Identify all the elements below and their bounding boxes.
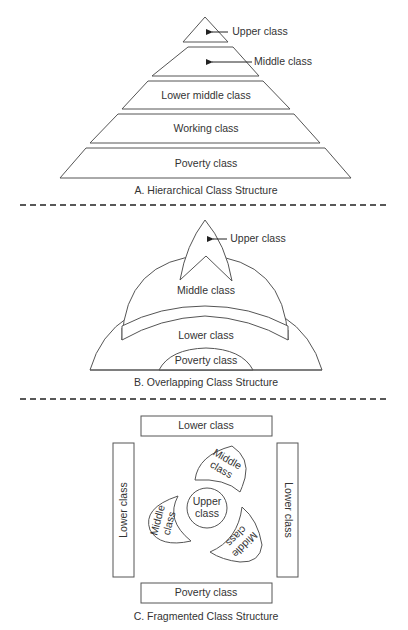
label-b-lower-class: Lower class xyxy=(178,329,233,341)
label-b-poverty-class: Poverty class xyxy=(175,354,237,366)
label-c-top-lower-class: Lower class xyxy=(178,419,233,431)
tier-upper-class xyxy=(183,17,228,42)
label-c-upper-line1: Upper xyxy=(193,495,222,507)
label-a-upper-class: Upper class xyxy=(232,25,287,37)
label-a-poverty-class: Poverty class xyxy=(175,157,237,169)
class-structure-diagram: Upper class Middle class Lower middle cl… xyxy=(0,0,408,630)
caption-c: C. Fragmented Class Structure xyxy=(134,610,279,622)
label-c-poverty-class: Poverty class xyxy=(175,586,237,598)
label-c-left-lower-class: Lower class xyxy=(117,482,129,537)
label-b-middle-class: Middle class xyxy=(177,284,235,296)
label-c-upper-line2: class xyxy=(195,507,219,519)
label-a-middle-class: Middle class xyxy=(254,55,312,67)
label-a-lower-middle-class: Lower middle class xyxy=(161,89,250,101)
caption-a: A. Hierarchical Class Structure xyxy=(135,184,278,196)
label-b-upper-class: Upper class xyxy=(230,232,285,244)
caption-b: B. Overlapping Class Structure xyxy=(134,376,278,388)
label-c-right-lower-class: Lower class xyxy=(283,482,295,537)
label-a-working-class: Working class xyxy=(173,122,238,134)
